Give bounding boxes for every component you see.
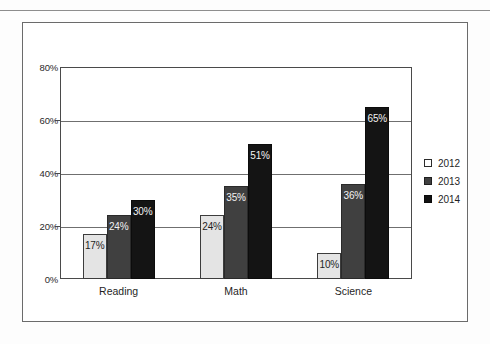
bar-reading-2013: 24%	[107, 215, 131, 279]
bars-layer: 17%24%30%24%35%51%10%36%65%	[60, 67, 412, 279]
y-tick-label: 80%	[22, 62, 58, 73]
legend-label: 2014	[438, 194, 460, 205]
bar-value-label: 65%	[366, 113, 388, 124]
bar-value-label: 10%	[318, 259, 340, 270]
y-tick-label: 60%	[22, 115, 58, 126]
x-category-label-math: Math	[224, 285, 247, 297]
bar-reading-2012: 17%	[83, 234, 107, 279]
y-axis: 0%20%40%60%80%	[18, 67, 58, 279]
y-tick-label: 0%	[22, 274, 58, 285]
bar-value-label: 24%	[108, 221, 130, 232]
bar-science-2014: 65%	[365, 107, 389, 279]
y-tick-label: 40%	[22, 168, 58, 179]
bar-science-2012: 10%	[317, 253, 341, 280]
y-tick-label: 20%	[22, 221, 58, 232]
legend: 201220132014	[424, 155, 470, 209]
legend-label: 2013	[438, 176, 460, 187]
bar-math-2013: 35%	[224, 186, 248, 279]
bar-value-label: 17%	[84, 240, 106, 251]
legend-swatch-2012-icon	[424, 159, 432, 167]
bar-value-label: 30%	[132, 206, 154, 217]
legend-swatch-2013-icon	[424, 177, 432, 185]
chart-page: 0%20%40%60%80% 17%24%30%24%35%51%10%36%6…	[0, 0, 490, 344]
bar-science-2013: 36%	[341, 184, 365, 279]
bar-math-2012: 24%	[200, 215, 224, 279]
x-category-label-reading: Reading	[99, 285, 138, 297]
bar-math-2014: 51%	[248, 144, 272, 279]
bar-value-label: 36%	[342, 190, 364, 201]
legend-item-2012[interactable]: 2012	[424, 155, 470, 171]
bar-value-label: 51%	[249, 150, 271, 161]
bar-value-label: 35%	[225, 192, 247, 203]
legend-swatch-2014-icon	[424, 195, 432, 203]
bar-reading-2014: 30%	[131, 200, 155, 280]
legend-item-2013[interactable]: 2013	[424, 173, 470, 189]
bar-value-label: 24%	[201, 221, 223, 232]
x-axis-category-labels: ReadingMathScience	[60, 285, 412, 301]
legend-item-2014[interactable]: 2014	[424, 191, 470, 207]
top-divider-rule	[0, 10, 490, 11]
legend-label: 2012	[438, 158, 460, 169]
x-category-label-science: Science	[335, 285, 372, 297]
